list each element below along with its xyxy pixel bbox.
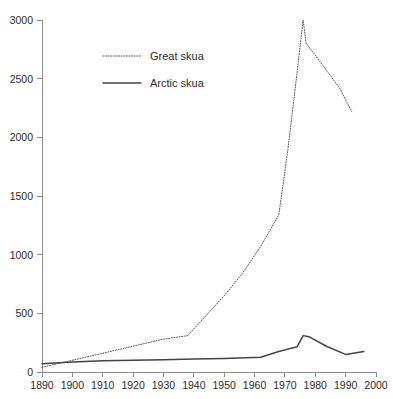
x-axis-tick-labels: 1890190019101920193019401950196019701980… [30, 379, 388, 391]
data-series-group [42, 20, 364, 367]
x-tick-label-1960: 1960 [243, 379, 267, 391]
y-tick-label-1500: 1500 [10, 190, 34, 202]
x-tick-label-1910: 1910 [91, 379, 115, 391]
x-tick-label-1950: 1950 [213, 379, 237, 391]
x-axis: 1890190019101920193019401950196019701980… [30, 372, 388, 391]
y-tick-label-1000: 1000 [10, 249, 34, 261]
y-tick-label-3000: 3000 [10, 14, 34, 26]
y-tick-label-500: 500 [15, 307, 33, 319]
x-tick-label-1980: 1980 [304, 379, 328, 391]
legend-label-arctic-skua: Arctic skua [150, 77, 205, 89]
x-tick-label-1900: 1900 [61, 379, 85, 391]
x-tick-label-1990: 1990 [334, 379, 358, 391]
legend-entry-great-skua: Great skua [103, 50, 205, 62]
chart-container: 050010001500200025003000 189019001910192… [0, 0, 393, 399]
y-axis-tick-labels: 050010001500200025003000 [10, 14, 34, 378]
y-tick-label-2000: 2000 [10, 131, 34, 143]
x-tick-label-1890: 1890 [30, 379, 54, 391]
legend-label-great-skua: Great skua [150, 50, 205, 62]
x-axis-ticks [42, 372, 376, 377]
y-tick-label-2500: 2500 [10, 73, 34, 85]
series-line-great-skua [42, 20, 352, 367]
series-line-arctic-skua [42, 336, 364, 364]
x-tick-label-1920: 1920 [121, 379, 145, 391]
legend-entry-arctic-skua: Arctic skua [103, 77, 205, 89]
chart-legend: Great skua Arctic skua [103, 50, 205, 89]
x-tick-label-1970: 1970 [273, 379, 297, 391]
line-chart: 050010001500200025003000 189019001910192… [0, 0, 393, 399]
y-tick-label-0: 0 [27, 366, 33, 378]
y-axis: 050010001500200025003000 [10, 14, 42, 378]
x-tick-label-2000: 2000 [364, 379, 388, 391]
y-axis-ticks [37, 20, 42, 372]
x-tick-label-1940: 1940 [182, 379, 206, 391]
x-tick-label-1930: 1930 [152, 379, 176, 391]
